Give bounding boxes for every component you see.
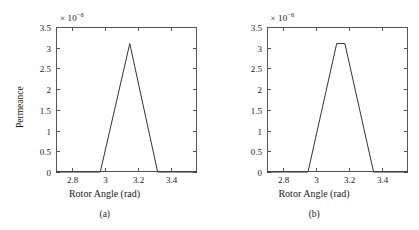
chart-panel-b: 2.833.23.400.511.522.533.5 × 10−6 Rotor … [210, 0, 419, 230]
y-tick-label: 2.5 [250, 64, 262, 74]
y-tick-label: 3 [257, 44, 262, 54]
exponent-power-a: −6 [77, 11, 84, 18]
y-tick-label: 3.5 [40, 23, 52, 33]
chart-panel-a: 2.833.23.400.511.522.533.5 × 10−6 Permea… [0, 0, 210, 230]
y-tick-label: 1 [257, 127, 262, 137]
subcaption-b: (b) [210, 210, 419, 220]
x-tick-label: 2.8 [67, 175, 79, 185]
y-tick-label: 3.5 [250, 23, 262, 33]
y-tick-label: 0.5 [40, 147, 52, 157]
y-tick-label: 3 [47, 44, 52, 54]
data-series-line [56, 44, 197, 172]
x-axis-label-b: Rotor Angle (rad) [210, 189, 419, 199]
data-series-line [267, 44, 408, 172]
x-tick-label: 3.4 [166, 175, 178, 185]
plot-box [267, 28, 407, 172]
y-tick-label: 2.5 [40, 64, 52, 74]
x-tick-label: 3.2 [343, 175, 354, 185]
y-tick-label: 0 [257, 168, 262, 178]
plot-box [57, 28, 197, 172]
y-exponent-label-a: × 10−6 [60, 12, 84, 23]
y-tick-label: 0 [47, 168, 52, 178]
x-tick-label: 2.8 [277, 175, 289, 185]
y-tick-label: 1.5 [40, 106, 52, 116]
x-tick-label: 3 [314, 175, 319, 185]
y-axis-label-a: Permeance [16, 86, 26, 128]
subcaption-a: (a) [0, 210, 210, 220]
y-tick-label: 0.5 [250, 147, 262, 157]
x-axis-label-a: Rotor Angle (rad) [0, 189, 209, 199]
x-tick-label: 3.4 [376, 175, 388, 185]
x-tick-label: 3 [103, 175, 108, 185]
y-tick-label: 1.5 [250, 106, 262, 116]
y-exponent-label-b: × 10−6 [271, 12, 295, 23]
figure-container: 2.833.23.400.511.522.533.5 × 10−6 Permea… [0, 0, 419, 230]
y-tick-label: 1 [47, 127, 52, 137]
y-tick-label: 2 [257, 85, 262, 95]
exponent-prefix-a: × 10 [60, 13, 77, 23]
y-tick-label: 2 [47, 85, 52, 95]
exponent-prefix-b: × 10 [271, 13, 288, 23]
exponent-power-b: −6 [287, 11, 294, 18]
x-tick-label: 3.2 [133, 175, 144, 185]
